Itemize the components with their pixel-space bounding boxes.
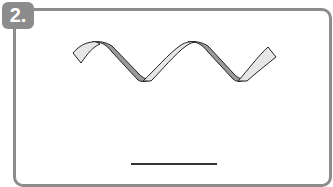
ribbon-front-face-1 [73,42,100,63]
ribbon-spiral-figure [0,0,333,187]
ribbon-front-face-3 [238,47,276,81]
answer-blank-line[interactable] [131,163,217,165]
ribbon-front-face-2 [143,42,196,81]
ribbon-back-face-1 [92,42,152,82]
ribbon-back-face-2 [188,42,247,82]
